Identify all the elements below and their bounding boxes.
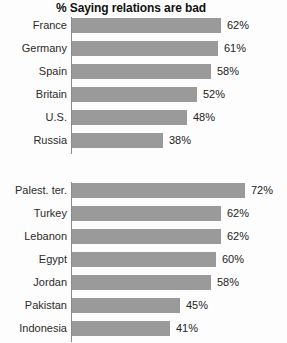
value-label: 45% (186, 299, 208, 312)
bar-row: Turkey62% (0, 205, 287, 228)
bar-row: Germany61% (0, 40, 287, 63)
value-label: 62% (227, 19, 249, 32)
bar-row: Spain58% (0, 63, 287, 86)
value-label: 41% (176, 322, 198, 335)
value-label: 38% (169, 134, 191, 147)
bar (72, 252, 216, 267)
bar (72, 18, 221, 33)
category-label: Germany (0, 42, 67, 55)
category-label: Spain (0, 65, 67, 78)
category-label: Britain (0, 88, 67, 101)
chart-title: % Saying relations are bad (0, 1, 262, 15)
chart-group-western: France62%Germany61%Spain58%Britain52%U.S… (0, 17, 287, 155)
bar (72, 275, 211, 290)
category-label: Indonesia (0, 322, 67, 335)
value-label: 58% (217, 65, 239, 78)
bar (72, 64, 211, 79)
value-label: 61% (224, 42, 246, 55)
bar (72, 206, 221, 221)
bar-row: U.S.48% (0, 109, 287, 132)
bar (72, 41, 218, 56)
bar (72, 183, 245, 198)
bar (72, 87, 197, 102)
category-label: France (0, 19, 67, 32)
category-label: Jordan (0, 276, 67, 289)
value-label: 60% (222, 253, 244, 266)
value-label: 58% (217, 276, 239, 289)
value-label: 62% (227, 230, 249, 243)
bar (72, 229, 221, 244)
bar (72, 133, 163, 148)
bar-row: Palest. ter.72% (0, 182, 287, 205)
chart-group-muslim: Palest. ter.72%Turkey62%Lebanon62%Egypt6… (0, 182, 287, 343)
value-label: 72% (251, 184, 273, 197)
value-label: 48% (193, 111, 215, 124)
category-label: Pakistan (0, 299, 67, 312)
category-label: Palest. ter. (0, 184, 67, 197)
value-label: 62% (227, 207, 249, 220)
bar (72, 321, 170, 336)
bar-row: Indonesia41% (0, 320, 287, 343)
category-label: U.S. (0, 111, 67, 124)
category-label: Egypt (0, 253, 67, 266)
bar-row: France62% (0, 17, 287, 40)
bar-row: Russia38% (0, 132, 287, 155)
value-label: 52% (203, 88, 225, 101)
bar-row: Britain52% (0, 86, 287, 109)
bar-row: Egypt60% (0, 251, 287, 274)
bar (72, 298, 180, 313)
bar-row: Lebanon62% (0, 228, 287, 251)
category-label: Turkey (0, 207, 67, 220)
bar-row: Pakistan45% (0, 297, 287, 320)
bar-row: Jordan58% (0, 274, 287, 297)
bar (72, 110, 187, 125)
category-label: Russia (0, 134, 67, 147)
category-label: Lebanon (0, 230, 67, 243)
